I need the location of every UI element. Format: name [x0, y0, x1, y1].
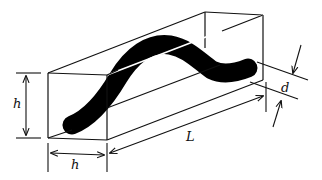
filament: [72, 45, 248, 125]
width-label: h: [71, 158, 79, 171]
thickness-label: d: [281, 81, 289, 94]
thickness-dimension: [250, 45, 308, 127]
length-label: L: [186, 130, 195, 143]
height-label: h: [13, 97, 21, 110]
channel-diagram: [0, 0, 322, 180]
